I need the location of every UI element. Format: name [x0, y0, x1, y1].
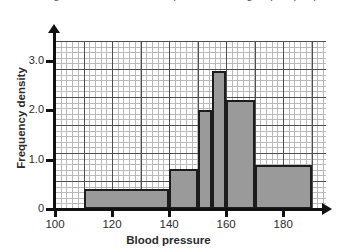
- x-axis-tick-label: 140: [149, 219, 189, 231]
- y-axis-title: Frequency density: [15, 43, 27, 193]
- figure-title-text: The histogram shows the blood pressure o…: [4, 0, 332, 1]
- x-axis-tick: [111, 208, 114, 217]
- x-axis-tick-label: 120: [92, 219, 132, 231]
- histogram-bar: [169, 169, 198, 209]
- x-axis-arrow-icon: [322, 203, 332, 215]
- x-axis-tick: [225, 208, 228, 217]
- histogram-bar: [226, 100, 255, 209]
- x-axis-tick: [282, 208, 285, 217]
- x-axis-tick-label: 100: [35, 219, 75, 231]
- y-axis-tick: [46, 159, 55, 162]
- x-axis-tick-label: 160: [206, 219, 246, 231]
- histogram-bar: [212, 71, 226, 209]
- plot-area: [55, 41, 326, 209]
- y-axis-tick: [46, 60, 55, 63]
- x-axis-tick: [54, 208, 57, 217]
- histogram-bar: [255, 165, 312, 209]
- x-axis-tick-label: 180: [263, 219, 303, 231]
- histogram-bar: [198, 110, 212, 209]
- y-axis-arrow-icon: [48, 24, 60, 33]
- histogram-figure: The histogram shows the blood pressure o…: [0, 0, 337, 252]
- y-axis-line: [53, 30, 56, 211]
- figure-title-cropped: The histogram shows the blood pressure o…: [0, 0, 337, 7]
- y-axis-tick-label: 0: [16, 203, 44, 214]
- x-axis-line: [55, 208, 326, 211]
- bar-series: [55, 41, 326, 209]
- y-axis-tick: [46, 109, 55, 112]
- x-axis-tick: [168, 208, 171, 217]
- histogram-bar: [84, 189, 170, 209]
- x-axis-title: Blood pressure: [0, 234, 337, 246]
